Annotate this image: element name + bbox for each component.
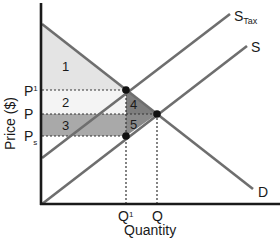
region-4-label: 4 (130, 97, 137, 112)
point-p1-q1 (122, 86, 130, 94)
x-axis-title: Quantity (124, 222, 176, 238)
price-label-ps: Ps (24, 128, 37, 147)
point-equilibrium (153, 110, 161, 118)
tax-incidence-diagram: 1 2 3 4 5 P1 P Ps Q1 Q Quantity Price ($… (0, 0, 280, 240)
region-5-label: 5 (130, 117, 137, 132)
region-2-label: 2 (62, 95, 69, 110)
price-label-p: P (24, 106, 33, 122)
supply-label: S (251, 39, 260, 55)
point-ps-q1 (122, 132, 130, 140)
supply-tax-label: STax (234, 8, 258, 26)
y-axis-title: Price ($) (2, 97, 18, 150)
region-3-label: 3 (62, 118, 69, 133)
demand-label: D (258, 184, 268, 200)
region-1-label: 1 (62, 59, 69, 74)
price-label-p1: P1 (24, 83, 38, 99)
